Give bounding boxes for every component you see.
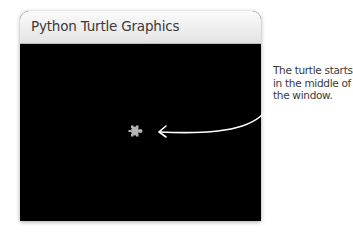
turtle-icon bbox=[129, 126, 143, 137]
annotation-text: The turtle starts in the middle of the w… bbox=[273, 64, 353, 102]
annotation-arrow bbox=[159, 102, 272, 137]
